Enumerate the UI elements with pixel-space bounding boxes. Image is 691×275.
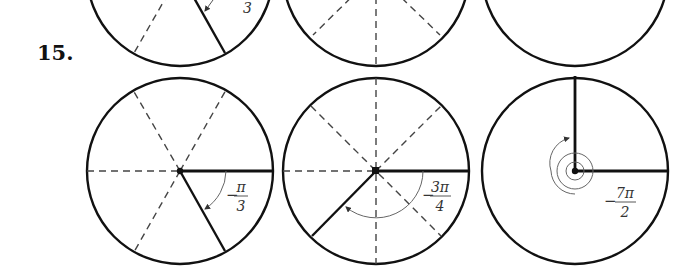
dashed-guide [134,0,180,53]
angle-denominator: 4 [435,198,445,214]
partial-angle-label: 3 [243,0,252,16]
terminal-side [312,171,376,236]
angle-numerator: 7π [616,185,635,201]
angle-arc-arrow-icon [346,171,423,218]
figure-negative-pi-over-3: − π 3 [87,78,273,264]
dashed-guide [376,0,440,35]
origin-dot [177,168,183,174]
angle-sign: − [604,192,617,210]
figure-negative-3pi-over-4: − 3π 4 [283,78,469,264]
terminal-side [180,0,225,53]
dashed-guide [133,90,180,171]
dashed-guide [180,90,226,171]
dashed-guide [313,0,376,35]
circle-outline [482,0,668,66]
angle-numerator: 3π [431,179,450,195]
angle-arrow-icon [205,0,213,11]
angle-numerator: π [235,179,246,195]
top-row-partial-figures: 3 [87,0,668,66]
origin-dot [372,167,379,174]
angle-denominator: 2 [620,204,630,220]
angle-arc-arrow-icon [205,171,226,209]
origin-dot [572,168,578,174]
terminal-side [180,171,225,251]
dashed-guide [376,106,441,171]
spiral-arrow-icon [550,138,575,194]
figure-negative-7pi-over-2: − 7π 2 [482,76,668,264]
angle-denominator: 3 [237,198,246,214]
dashed-guide [134,171,180,252]
